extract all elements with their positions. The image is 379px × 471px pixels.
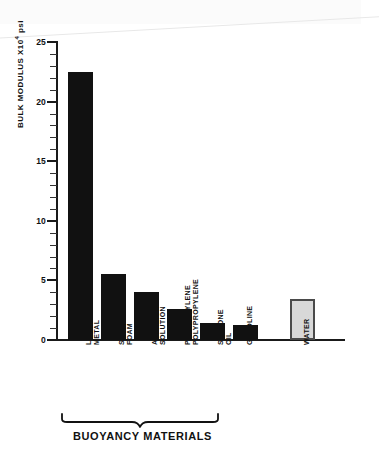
bar: [68, 72, 93, 340]
x-axis-label-line: WATER: [303, 318, 311, 345]
x-axis-label: SILICONEOIL: [217, 309, 233, 345]
x-axis-label-line: SILICONE: [217, 309, 225, 345]
x-axis-label-line: OIL: [225, 309, 233, 345]
group-brace: [60, 412, 220, 428]
x-axis-label: AMMONIASOLUTION: [151, 306, 167, 345]
bars-container: [0, 0, 361, 340]
x-axis-label-line: POLYETHYLENE: [184, 279, 192, 345]
brace-icon: [60, 412, 220, 428]
x-axis-label: WATER: [303, 318, 311, 345]
x-axis-label: SYNTACTICFOAM: [118, 302, 134, 345]
x-axis-label-line: AMMONIA: [151, 306, 159, 345]
y-tick-label-wrap: 0: [0, 340, 46, 341]
x-axis-label-line: POLYPROPYLENE: [192, 279, 200, 345]
x-axis-label-line: SYNTACTIC: [118, 302, 126, 345]
x-axis-label: GASOLINE: [246, 306, 254, 345]
x-axis-label: POLYETHYLENEPOLYPROPYLENE: [184, 279, 200, 345]
x-axis-label-line: FOAM: [126, 302, 134, 345]
x-axis-label-line: SOLUTION: [159, 306, 167, 345]
x-axis-label: LITHIUMMETAL: [85, 314, 101, 345]
x-axis-label-line: GASOLINE: [246, 306, 254, 345]
group-caption: BUOYANCY MATERIALS: [55, 430, 230, 442]
x-axis-label-line: LITHIUM: [85, 314, 93, 345]
x-axis-label-line: METAL: [93, 314, 101, 345]
